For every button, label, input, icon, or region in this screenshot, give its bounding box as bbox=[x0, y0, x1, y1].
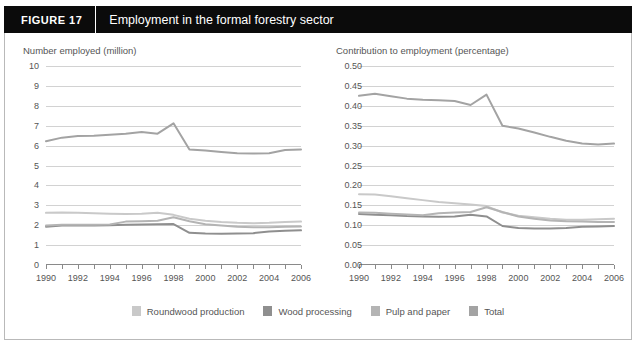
y-axis-tick-label: 0.35 bbox=[318, 121, 362, 131]
x-axis-tick-label: 1994 bbox=[100, 273, 120, 283]
legend-item[interactable]: Pulp and paper bbox=[371, 306, 450, 317]
x-axis-tick-mark bbox=[391, 265, 392, 269]
x-axis-tick-label: 2000 bbox=[508, 273, 528, 283]
x-axis-tick-label: 1998 bbox=[476, 273, 496, 283]
x-axis-tick-mark bbox=[423, 265, 424, 269]
x-axis-tick-mark bbox=[158, 265, 159, 269]
y-axis-tick-label: 8 bbox=[5, 101, 39, 111]
x-axis-tick-label: 1996 bbox=[445, 273, 465, 283]
y-axis-tick-label: 9 bbox=[5, 81, 39, 91]
x-axis-tick-mark bbox=[550, 265, 551, 269]
legend-swatch-icon bbox=[132, 306, 141, 316]
x-axis-tick-mark bbox=[407, 265, 408, 269]
chart-panel-number-employed: Number employed (million) 19901992199419… bbox=[5, 33, 318, 295]
y-axis-tick-label: 0.15 bbox=[318, 200, 362, 210]
series-layer bbox=[46, 66, 301, 265]
x-axis-tick-label: 1992 bbox=[68, 273, 88, 283]
y-axis-tick-label: 0.40 bbox=[318, 101, 362, 111]
plot-right: 199019921994199619982000200220042006 bbox=[359, 66, 614, 265]
legend-item[interactable]: Roundwood production bbox=[132, 306, 245, 317]
series-line-total bbox=[46, 123, 301, 153]
x-axis-tick-mark bbox=[614, 265, 615, 269]
y-axis-tick-label: 0.25 bbox=[318, 161, 362, 171]
y-axis-tick-label: 0.00 bbox=[318, 260, 362, 270]
x-axis-tick-label: 2004 bbox=[259, 273, 279, 283]
x-axis-tick-label: 1990 bbox=[349, 273, 369, 283]
panel-title-left: Number employed (million) bbox=[23, 45, 137, 56]
x-axis-tick-mark bbox=[78, 265, 79, 269]
panel-title-right: Contribution to employment (percentage) bbox=[336, 45, 509, 56]
x-axis-tick-mark bbox=[110, 265, 111, 269]
y-axis-tick-label: 3 bbox=[5, 200, 39, 210]
figure-title: Employment in the formal forestry sector bbox=[96, 13, 333, 27]
y-axis-tick-label: 0.20 bbox=[318, 180, 362, 190]
x-axis-tick-label: 2006 bbox=[291, 273, 311, 283]
y-axis-tick-label: 6 bbox=[5, 141, 39, 151]
y-axis-tick-label: 1 bbox=[5, 240, 39, 250]
x-axis-tick-mark bbox=[189, 265, 190, 269]
x-axis-tick-mark bbox=[126, 265, 127, 269]
x-axis-tick-label: 2002 bbox=[227, 273, 247, 283]
x-axis-tick-mark bbox=[534, 265, 535, 269]
chart-panel-contribution: Contribution to employment (percentage) … bbox=[318, 33, 631, 295]
chart-legend: Roundwood productionWood processingPulp … bbox=[5, 301, 631, 321]
plot-left: 199019921994199619982000200220042006 bbox=[46, 66, 301, 265]
y-axis-tick-label: 0.45 bbox=[318, 81, 362, 91]
legend-label: Wood processing bbox=[278, 306, 351, 317]
x-axis-tick-label: 2006 bbox=[604, 273, 624, 283]
y-axis-tick-label: 5 bbox=[5, 161, 39, 171]
x-axis-tick-mark bbox=[174, 265, 175, 269]
figure-number-label: FIGURE 17 bbox=[4, 14, 95, 26]
x-axis-tick-mark bbox=[375, 265, 376, 269]
y-axis-tick-label: 2 bbox=[5, 220, 39, 230]
x-axis-tick-mark bbox=[439, 265, 440, 269]
legend-item[interactable]: Total bbox=[469, 306, 504, 317]
x-axis-tick-mark bbox=[269, 265, 270, 269]
y-axis-tick-label: 0.50 bbox=[318, 61, 362, 71]
figure-container: FIGURE 17 Employment in the formal fores… bbox=[0, 0, 640, 347]
x-axis-tick-label: 1990 bbox=[36, 273, 56, 283]
legend-label: Pulp and paper bbox=[386, 306, 450, 317]
x-axis-tick-label: 2000 bbox=[195, 273, 215, 283]
x-axis-tick-mark bbox=[94, 265, 95, 269]
x-axis-tick-mark bbox=[301, 265, 302, 269]
x-axis-tick-mark bbox=[502, 265, 503, 269]
x-axis-tick-mark bbox=[518, 265, 519, 269]
x-axis-tick-mark bbox=[221, 265, 222, 269]
x-axis-tick-mark bbox=[582, 265, 583, 269]
figure-header: FIGURE 17 Employment in the formal fores… bbox=[4, 6, 632, 33]
y-axis-tick-label: 0.30 bbox=[318, 141, 362, 151]
x-axis-tick-mark bbox=[598, 265, 599, 269]
legend-label: Total bbox=[484, 306, 504, 317]
x-axis-tick-mark bbox=[253, 265, 254, 269]
y-axis-tick-label: 0.10 bbox=[318, 220, 362, 230]
x-axis-tick-label: 1992 bbox=[381, 273, 401, 283]
x-axis-tick-label: 1998 bbox=[163, 273, 183, 283]
legend-swatch-icon bbox=[469, 306, 478, 316]
y-axis-tick-label: 0.05 bbox=[318, 240, 362, 250]
x-axis-tick-mark bbox=[455, 265, 456, 269]
y-axis-tick-label: 7 bbox=[5, 121, 39, 131]
x-axis-tick-mark bbox=[205, 265, 206, 269]
legend-label: Roundwood production bbox=[147, 306, 245, 317]
x-axis-tick-mark bbox=[46, 265, 47, 269]
x-axis-tick-label: 1996 bbox=[132, 273, 152, 283]
series-line-total bbox=[359, 94, 614, 145]
x-axis-tick-mark bbox=[487, 265, 488, 269]
legend-swatch-icon bbox=[371, 306, 380, 316]
x-axis-tick-mark bbox=[142, 265, 143, 269]
x-axis-tick-label: 2004 bbox=[572, 273, 592, 283]
chart-area: Number employed (million) 19901992199419… bbox=[5, 33, 631, 339]
y-axis-tick-label: 4 bbox=[5, 180, 39, 190]
x-axis-tick-label: 1994 bbox=[413, 273, 433, 283]
x-axis-tick-label: 2002 bbox=[540, 273, 560, 283]
x-axis-tick-mark bbox=[471, 265, 472, 269]
x-axis-tick-mark bbox=[62, 265, 63, 269]
x-axis-tick-mark bbox=[566, 265, 567, 269]
y-axis-tick-label: 0 bbox=[5, 260, 39, 270]
x-axis-tick-mark bbox=[237, 265, 238, 269]
y-axis-tick-label: 10 bbox=[5, 61, 39, 71]
legend-item[interactable]: Wood processing bbox=[263, 306, 351, 317]
series-layer bbox=[359, 66, 614, 265]
legend-swatch-icon bbox=[263, 306, 272, 316]
